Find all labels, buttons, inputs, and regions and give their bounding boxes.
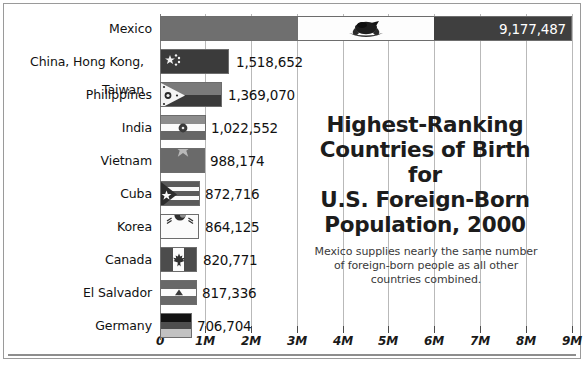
chart-title-line-2: Countries of Birth for [300,137,550,187]
bar-row-mexico: Mexico 9,177,487 [0,15,587,43]
category-label-canada: Canada [8,246,158,274]
chart-title-line-1: Highest-Ranking [300,112,550,137]
bar-india [160,115,206,140]
chart-title-line-3: U.S. Foreign-Born [300,187,550,212]
category-label-vietnam: Vietnam [8,147,158,175]
bar-value-korea: 864,125 [205,213,259,241]
chart-subtitle-line-1: Mexico supplies nearly the same number [300,245,552,259]
chart-subtitle-line-2: of foreign-born people as all other [300,259,552,273]
philippines-triangle-icon [161,83,189,107]
china-flag [161,50,228,73]
germany-flag [161,314,191,337]
elsalvador-emblem-icon [174,289,184,297]
bar-row-philippines: Philippines 1,369,070 [0,81,587,109]
bar-elsalvador [160,280,197,305]
bar-canada [160,247,197,272]
canada-maple-leaf-icon [172,253,185,267]
category-label-cuba: Cuba [8,180,158,208]
axis-baseline [8,354,576,356]
cuba-triangle-star-icon [161,182,179,206]
chart-title: Highest-Ranking Countries of Birth for U… [300,112,550,237]
bar-cuba [160,181,200,206]
korea-taegeuk-icon [165,214,195,225]
category-label-philippines: Philippines [8,81,158,109]
bar-row-germany: Germany 706,704 [0,312,587,340]
category-label-germany: Germany [8,312,158,340]
bar-chart: 0 1M 2M 3M 4M 5M 6M 7M 8M 9M Mexico [0,0,587,366]
bar-value-germany: 706,704 [197,312,251,340]
bar-philippines [160,82,222,107]
category-label-korea: Korea [8,213,158,241]
mexico-coat-of-arms-icon [343,19,389,39]
bar-value-canada: 820,771 [203,246,257,274]
elsalvador-flag [161,281,196,304]
china-stars-icon [164,53,188,69]
bar-value-elsalvador: 817,336 [202,279,256,307]
vietnam-star-icon [174,148,192,158]
chart-title-line-4: Population, 2000 [300,212,550,237]
bar-germany [160,313,192,338]
bar-value-china: 1,518,652 [236,48,303,76]
cuba-flag [161,182,199,205]
bar-value-india: 1,022,552 [211,114,278,142]
chart-subtitle: Mexico supplies nearly the same number o… [300,245,552,287]
bar-value-mexico: 9,177,487 [499,15,566,43]
category-label-elsalvador: El Salvador [8,279,158,307]
bar-row-china: China, Hong Kong, Taiwan 1,518,652 [0,48,587,76]
category-label-india: India [8,114,158,142]
bar-value-cuba: 872,716 [205,180,259,208]
bar-value-vietnam: 988,174 [210,147,264,175]
bar-korea [160,214,199,239]
category-label-mexico: Mexico [8,15,158,43]
chart-subtitle-line-3: countries combined. [300,273,552,287]
india-ashoka-chakra-icon [178,122,189,133]
india-flag [161,116,205,139]
bar-china [160,49,229,74]
bar-vietnam [160,148,205,173]
canada-flag [161,248,196,271]
bar-value-philippines: 1,369,070 [228,81,295,109]
